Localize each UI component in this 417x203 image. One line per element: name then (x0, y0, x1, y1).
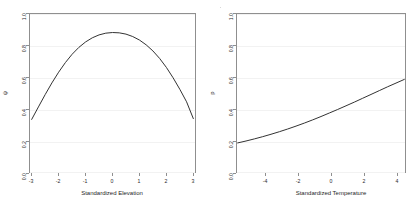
x-axis-title: Standardized Elevation (81, 190, 143, 196)
x-tick-label: 3 (192, 178, 195, 184)
y-tick-label: 0.6 (21, 77, 27, 93)
occupancy-curve (29, 13, 196, 173)
stray-speck (220, 7, 221, 8)
x-tick-mark (364, 173, 365, 176)
y-axis-title: ψ (2, 86, 8, 100)
x-tick-mark (265, 173, 266, 176)
x-axis-title: Standardized Temperature (296, 190, 367, 196)
x-tick-label: -4 (263, 178, 268, 184)
y-tick-label: 0.8 (21, 45, 27, 61)
x-tick-label: 2 (165, 178, 168, 184)
y-tick-label: 0.0 (228, 173, 234, 189)
two-panel-figure: 1.0 0.8 0.6 0.4 0.2 0.0 ψ -3 -2 -1 0 1 2… (0, 0, 417, 203)
x-tick-mark (112, 173, 113, 176)
x-tick-mark (331, 173, 332, 176)
x-tick-label: 0 (111, 178, 114, 184)
x-tick-mark (31, 173, 32, 176)
y-tick-label: 0.2 (21, 141, 27, 157)
y-tick-label: 0.6 (228, 77, 234, 93)
y-tick-label: 0.4 (21, 109, 27, 125)
x-tick-mark (166, 173, 167, 176)
x-tick-label: -3 (29, 178, 34, 184)
x-tick-mark (193, 173, 194, 176)
x-tick-label: -2 (56, 178, 61, 184)
y-tick-label: 0.4 (228, 109, 234, 125)
y-tick-label: 1.0 (21, 13, 27, 29)
detection-curve (236, 13, 406, 173)
panel-occupancy-elevation: 1.0 0.8 0.6 0.4 0.2 0.0 ψ -3 -2 -1 0 1 2… (0, 0, 208, 203)
y-tick-label: 1.0 (228, 13, 234, 29)
x-tick-mark (85, 173, 86, 176)
y-tick-label: 0.8 (228, 45, 234, 61)
x-tick-label: -2 (296, 178, 301, 184)
y-tick-label: 0.2 (228, 141, 234, 157)
x-tick-mark (139, 173, 140, 176)
panel-detection-temperature: 1.0 0.8 0.6 0.4 0.2 0.0 p -4 -2 0 2 4 St… (208, 0, 417, 203)
x-tick-label: 1 (138, 178, 141, 184)
x-tick-mark (397, 173, 398, 176)
x-tick-label: -1 (83, 178, 88, 184)
y-axis-title: p (209, 86, 215, 100)
x-tick-label: 2 (363, 178, 366, 184)
y-tick-label: 0.0 (21, 173, 27, 189)
x-tick-label: 4 (396, 178, 399, 184)
x-tick-label: 0 (330, 178, 333, 184)
x-tick-mark (298, 173, 299, 176)
x-tick-mark (58, 173, 59, 176)
